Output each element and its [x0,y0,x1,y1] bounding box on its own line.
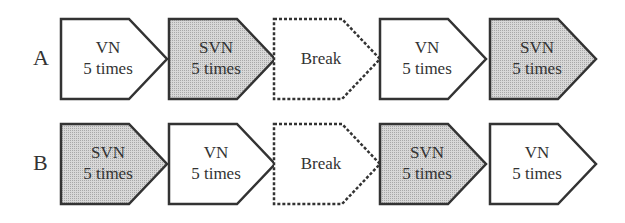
step-title: VN [63,37,153,58]
step-repetitions: 5 times [171,163,261,184]
sequence-diagram [0,0,625,223]
step-repetitions: 5 times [171,58,261,79]
step-title: VN [492,142,582,163]
step-title: VN [382,37,472,58]
step-title: SVN [171,37,261,58]
step-title: SVN [492,37,582,58]
step-label: VN5 times [382,37,472,79]
step-repetitions: 5 times [492,58,582,79]
step-label: Break [276,153,366,174]
row-label-a: A [33,45,49,71]
step-label: VN5 times [492,142,582,184]
step-label: SVN5 times [382,142,472,184]
step-repetitions: 5 times [63,58,153,79]
step-label: VN5 times [63,37,153,79]
step-repetitions: 5 times [382,58,472,79]
step-label: SVN5 times [171,37,261,79]
step-label: SVN5 times [492,37,582,79]
step-title: SVN [382,142,472,163]
step-repetitions: 5 times [63,163,153,184]
step-repetitions: 5 times [382,163,472,184]
step-title: VN [171,142,261,163]
step-label: SVN5 times [63,142,153,184]
step-label: Break [276,48,366,69]
step-repetitions: 5 times [492,163,582,184]
step-title: SVN [63,142,153,163]
row-label-b: B [33,150,48,176]
step-label: VN5 times [171,142,261,184]
